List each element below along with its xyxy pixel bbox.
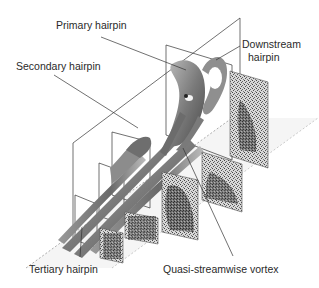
label-secondary-hairpin: Secondary hairpin <box>16 60 101 72</box>
label-primary-hairpin: Primary hairpin <box>56 19 127 31</box>
hairpin-vortex-figure: Primary hairpin Secondary hairpin Downst… <box>0 0 319 288</box>
label-downstream-hairpin-line1: Downstream <box>242 38 301 50</box>
label-tertiary-hairpin: Tertiary hairpin <box>29 263 98 275</box>
label-quasi-streamwise-vortex: Quasi-streamwise vortex <box>163 263 279 275</box>
label-downstream-hairpin-line2: hairpin <box>248 51 280 63</box>
